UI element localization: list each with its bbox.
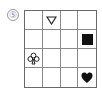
grid-cell-r2-c2 [61, 49, 79, 68]
puzzle-number-label: ⑤ [7, 9, 19, 21]
grid-cell-r2-c1 [43, 49, 61, 68]
grid-cell-r2-c3 [78, 49, 96, 68]
grid-cell-r1-c1 [43, 30, 61, 49]
puzzle-grid [24, 10, 97, 88]
grid-cell-r0-c0 [25, 11, 43, 30]
grid-cell-r1-c0 [25, 30, 43, 49]
triangle-down-icon [46, 16, 57, 25]
grid-cell-r1-c2 [61, 30, 79, 49]
filled-square-icon [82, 34, 93, 45]
grid-cell-r2-c0 [25, 49, 43, 68]
grid-cell-r1-c3 [78, 30, 96, 49]
grid-cell-r0-c3 [78, 11, 96, 30]
grid-cell-r0-c2 [61, 11, 79, 30]
grid-cell-r3-c3 [78, 68, 96, 87]
heart-icon [81, 72, 93, 84]
club-icon [27, 52, 40, 65]
grid-cell-r3-c1 [43, 68, 61, 87]
grid-cell-r3-c0 [25, 68, 43, 87]
grid-cell-r3-c2 [61, 68, 79, 87]
grid-cell-r0-c1 [43, 11, 61, 30]
